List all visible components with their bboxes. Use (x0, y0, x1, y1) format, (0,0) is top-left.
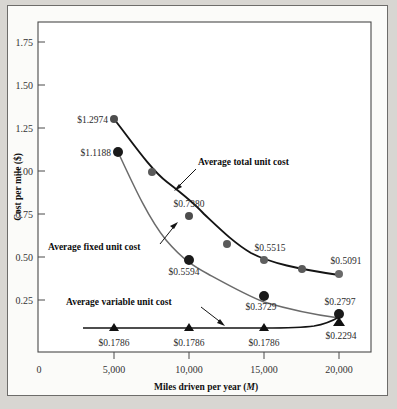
value-label-variable-10000: $0.1786 (174, 338, 205, 348)
annotation-variable-unit-cost: Average variable unit cost (66, 297, 172, 307)
x-axis-ticks (114, 352, 339, 359)
xtick-label-15000: 15,000 (250, 364, 278, 375)
datapoint-total-20000 (335, 270, 343, 278)
value-label-total-10000: $0.7380 (174, 199, 205, 209)
ytick-label-125: 1.25 (16, 123, 34, 134)
figure-container: 1.75 1.50 1.25 1.00 0.75 0.50 0.25 0 5,0… (0, 0, 397, 409)
value-label-fixed-20000: $0.2797 (325, 297, 356, 307)
value-label-variable-20000: $0.2294 (326, 331, 357, 341)
annotation-total-unit-cost: Average total unit cost (198, 157, 290, 167)
xtick-label-20000: 20,000 (325, 364, 353, 375)
x-axis-title: Miles driven per year (M) (154, 382, 258, 393)
datapoint-total-15000 (260, 256, 268, 264)
value-label-variable-5000: $0.1786 (99, 338, 130, 348)
ytick-label-025: 0.25 (16, 295, 34, 306)
y-axis-title: Cost per mile ($) (13, 153, 24, 221)
xtick-label-10000: 10,000 (175, 364, 203, 375)
datapoint-fixed-5000 (113, 147, 123, 157)
annotation-fixed-unit-cost: Average fixed unit cost (48, 242, 141, 252)
xtick-label-0: 0 (37, 364, 42, 375)
datapoint-total-12500 (223, 240, 231, 248)
datapoint-total-7500 (148, 168, 156, 176)
value-label-total-5000: $1.2974 (77, 115, 108, 125)
value-label-fixed-10000: $0.5594 (169, 267, 200, 277)
datapoint-fixed-10000 (184, 255, 194, 265)
x-axis-ticklabels: 0 5,000 10,000 15,000 20,000 (37, 364, 353, 375)
ytick-label-150: 1.50 (16, 80, 34, 91)
datapoint-total-17500 (298, 265, 306, 273)
cost-per-mile-chart: 1.75 1.50 1.25 1.00 0.75 0.50 0.25 0 5,0… (8, 6, 387, 395)
value-label-fixed-5000: $1.1188 (80, 148, 111, 158)
value-label-total-20000: $0.5091 (331, 256, 362, 266)
datapoint-total-10000 (185, 212, 193, 220)
chart-paper: 1.75 1.50 1.25 1.00 0.75 0.50 0.25 0 5,0… (7, 5, 388, 396)
datapoint-fixed-15000 (259, 291, 269, 301)
datapoint-total-5000 (110, 115, 118, 123)
ytick-label-050: 0.50 (16, 252, 34, 263)
value-label-total-15000: $0.5515 (255, 243, 286, 253)
value-label-fixed-15000: $0.3729 (246, 302, 277, 312)
ytick-label-175: 1.75 (16, 37, 34, 48)
value-label-variable-15000: $0.1786 (249, 338, 280, 348)
xtick-label-5000: 5,000 (103, 364, 126, 375)
